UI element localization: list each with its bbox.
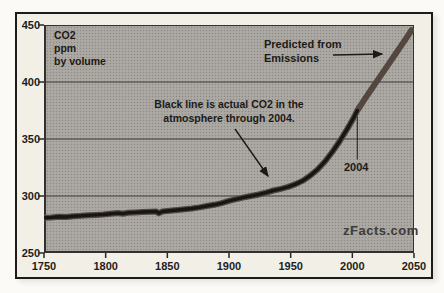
predicted-line-2: Emissions xyxy=(264,51,342,65)
y-tick-label-450: 450 xyxy=(8,19,40,31)
co2-chart-screenshot: 450400350300250 175018001850190019502000… xyxy=(0,0,444,293)
y-tick-label-300: 300 xyxy=(8,190,40,202)
x-tick-label-1850: 1850 xyxy=(145,260,189,272)
predicted-annotation: Predicted from Emissions xyxy=(264,37,342,65)
unit-line-3: by volume xyxy=(54,55,106,68)
actual-line-1: Black line is actual CO2 in the xyxy=(145,98,313,112)
y-axis-unit-label: CO2 ppm by volume xyxy=(54,29,106,68)
unit-line-2: ppm xyxy=(54,42,106,55)
x-tick-label-2000: 2000 xyxy=(330,260,374,272)
actual-annotation: Black line is actual CO2 in the atmosphe… xyxy=(145,98,313,125)
x-tick-label-1950: 1950 xyxy=(269,260,313,272)
year-2004-label: 2004 xyxy=(344,161,368,173)
x-tick-label-1800: 1800 xyxy=(84,260,128,272)
x-tick-label-1900: 1900 xyxy=(207,260,251,272)
y-tick-label-400: 400 xyxy=(8,76,40,88)
watermark-text: zFacts.com xyxy=(343,223,419,238)
actual-line-2: atmosphere through 2004. xyxy=(145,112,313,126)
y-tick-label-350: 350 xyxy=(8,133,40,145)
series-actual-line xyxy=(44,111,357,218)
y-tick-label-250: 250 xyxy=(8,247,40,259)
x-tick-label-1750: 1750 xyxy=(22,260,66,272)
unit-line-1: CO2 xyxy=(54,29,106,42)
x-tick-label-2050: 2050 xyxy=(392,260,436,272)
predicted-line-1: Predicted from xyxy=(264,37,342,51)
